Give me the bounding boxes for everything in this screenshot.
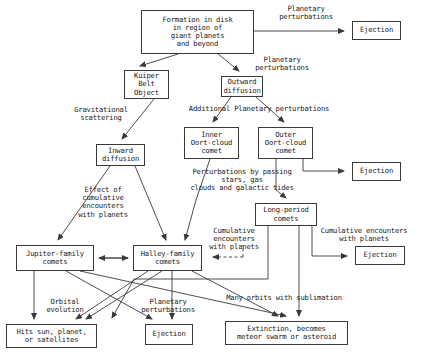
node-outer-oort-cloud-comet[interactable]: Outer Oort-cloud comet <box>258 127 313 159</box>
label-gravitational-scattering: Gravitational scattering <box>58 106 144 122</box>
edge-oort-to-halley <box>185 200 196 240</box>
edge-formation-to-kuiper <box>140 54 178 66</box>
label-orbital-evolution: Orbital evolution <box>32 298 98 314</box>
node-ejection-top[interactable]: Ejection <box>352 21 401 40</box>
node-inner-oort-cloud-comet[interactable]: Inner Oort-cloud comet <box>184 127 239 159</box>
node-long-period-comets[interactable]: Long-period comets <box>255 203 317 226</box>
node-halley-family-comets[interactable]: Halley-family comets <box>133 245 202 271</box>
node-kuiper-belt-object[interactable]: Kuiper Belt Object <box>124 70 169 99</box>
label-effect-cumulative-encounters: Effect of cumulative encounters with pla… <box>62 186 144 219</box>
node-jupiter-family-comets[interactable]: Jupiter-family comets <box>16 245 94 271</box>
node-hits-sun-planet-satellites[interactable]: Hits sun, planet, or satellites <box>6 324 97 348</box>
edge-formation-to-outward <box>218 54 239 71</box>
label-planetary-perturbations-top: Planetary perturbations <box>262 5 350 21</box>
flowchart-canvas: Formation in disk in region of giant pla… <box>0 0 422 358</box>
node-ejection-bottom[interactable]: Ejection <box>145 324 193 345</box>
label-additional-planetary-perturbations: Additional Planetary perturbations <box>156 105 362 113</box>
node-extinction[interactable]: Extinction, becomes meteor swarm or aste… <box>225 321 348 345</box>
node-formation[interactable]: Formation in disk in region of giant pla… <box>141 10 254 54</box>
node-ejection-long-period[interactable]: Ejection <box>355 246 405 265</box>
label-perturbations-passing-stars: Perturbations by passing stars, gas clou… <box>158 168 326 193</box>
label-planetary-perturbations-outward: Planetary perturbations <box>238 56 326 72</box>
label-many-orbits-sublimation: Many orbits with sublimation <box>198 294 370 302</box>
label-cumulative-encounters-long-period: Cumulative encounters with planets <box>306 227 422 243</box>
node-ejection-oort[interactable]: Ejection <box>352 162 401 181</box>
node-inward-diffusion[interactable]: Inward diffusion <box>96 144 145 166</box>
node-outward-diffusion[interactable]: Outward diffusion <box>221 76 263 97</box>
label-cumulative-encounters-halley: Cumulative encounters with planets <box>196 227 272 252</box>
